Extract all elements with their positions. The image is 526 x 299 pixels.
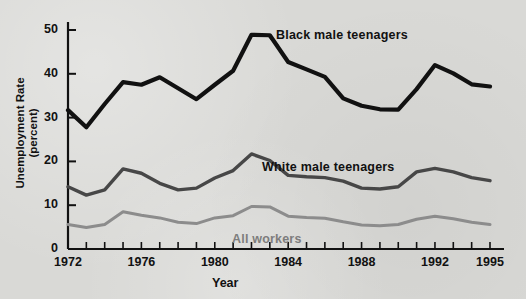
y-axis-title: Unemployment Rate (percent) — [14, 70, 40, 196]
y-tick-label-20: 20 — [32, 153, 58, 167]
x-tick-label-1984: 1984 — [268, 255, 308, 269]
unemployment-rate-chart-figure: Unemployment Rate (percent) Year 0102030… — [0, 0, 526, 299]
x-tick-label-1992: 1992 — [415, 255, 455, 269]
y-tick-label-40: 40 — [32, 66, 58, 80]
series-annotation-white-male-teenagers: White male teenagers — [262, 160, 395, 174]
x-tick-label-1976: 1976 — [121, 255, 161, 269]
series-annotation-black-male-teenagers: Black male teenagers — [276, 28, 408, 42]
x-axis-title: Year — [212, 276, 238, 290]
y-tick-label-50: 50 — [32, 22, 58, 36]
x-tick-label-1980: 1980 — [195, 255, 235, 269]
x-tick-label-1988: 1988 — [342, 255, 382, 269]
series-annotation-all-workers: All workers — [232, 232, 302, 246]
x-tick-label-1995: 1995 — [470, 255, 510, 269]
data-series-lines — [68, 35, 490, 228]
y-axis-title-line1: Unemployment Rate — [14, 77, 26, 188]
y-tick-label-0: 0 — [32, 241, 58, 255]
y-tick-label-30: 30 — [32, 110, 58, 124]
y-tick-label-10: 10 — [32, 197, 58, 211]
x-tick-label-1972: 1972 — [48, 255, 88, 269]
